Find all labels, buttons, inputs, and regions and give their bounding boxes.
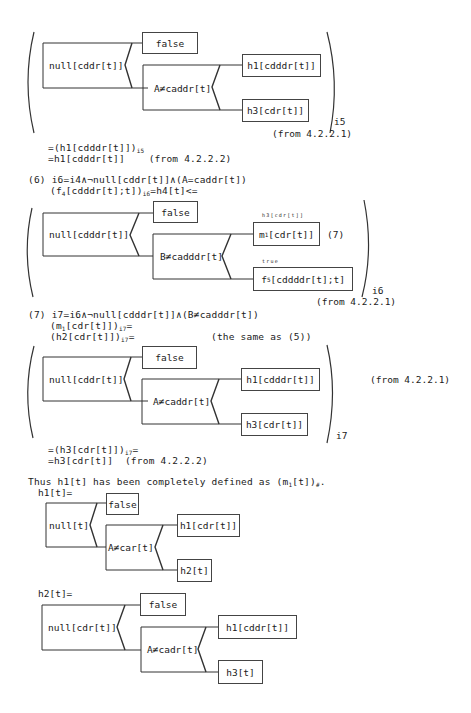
lower-result-box: h3[t] bbox=[218, 660, 263, 684]
conclusion-text: Thus h1[t] has been completely defined a… bbox=[28, 476, 326, 490]
subscript-label: i7 bbox=[336, 430, 347, 441]
subscript-label: i6 bbox=[372, 285, 383, 296]
upper-annotation: h3[cdr[t]] bbox=[262, 212, 304, 218]
step-7-heading: (7) i7=i6∧¬null[cdddr[t]]∧(B≠cadddr[t]) bbox=[28, 309, 259, 320]
inner-condition-label: A≠caddr[t] bbox=[153, 396, 210, 407]
result-line-2: =h1[cdddr[t]] (from 4.2.2.2) bbox=[48, 153, 232, 164]
step-7-note: (the same as (5)) bbox=[211, 331, 312, 342]
step-6-formula: (f4[cdddr[t];t])i6=h4[t]<= bbox=[50, 185, 198, 199]
lower-result-box: h3[cdr[t]] bbox=[242, 99, 309, 122]
inner-condition-label: A≠cadr[t] bbox=[147, 644, 198, 655]
inner-condition-label: A≠caddr[t] bbox=[154, 83, 211, 94]
step-6-heading: (6) i6=i4∧¬null[cddr[t]]∧(A=caddr[t]) bbox=[28, 174, 247, 185]
condition-label: null[cddr[t]] bbox=[49, 374, 123, 385]
subscript-label: i5 bbox=[334, 116, 345, 127]
inner-condition-label: A≠car[t] bbox=[108, 542, 154, 553]
reference-label: (7) bbox=[327, 229, 344, 240]
false-box: false bbox=[140, 593, 186, 616]
upper-result-box: h1[cddr[t]] bbox=[218, 615, 297, 639]
definition-title: h1[t]= bbox=[38, 487, 72, 498]
upper-result-box: h1[cdr[t]] bbox=[177, 514, 240, 537]
upper-result-box: h1[cdddr[t]] bbox=[242, 54, 321, 77]
source-note: (from 4.2.2.1) bbox=[316, 296, 396, 307]
false-box: false bbox=[142, 346, 197, 369]
false-box: false bbox=[153, 201, 198, 223]
definition-title: h2[t]= bbox=[38, 588, 72, 599]
source-note: (from 4.2.2.1) bbox=[272, 128, 352, 139]
diagram-lines bbox=[0, 0, 471, 713]
inner-condition-label: B≠cadddr[t] bbox=[160, 251, 223, 262]
condition-label: null[cdr[t]] bbox=[48, 622, 117, 633]
result-line-2: =h3[cdr[t]] (from 4.2.2.2) bbox=[48, 455, 208, 466]
step-7-formula-2: (h2[cdr[t]])i7= bbox=[50, 331, 135, 345]
false-box: false bbox=[142, 32, 198, 54]
condition-label: null[cdddr[t]] bbox=[49, 229, 129, 240]
false-box: false bbox=[106, 493, 139, 515]
lower-result-box: f5[cddddr[t];t] bbox=[253, 267, 353, 291]
source-note: (from 4.2.2.1) bbox=[370, 374, 450, 385]
lower-result-box: h3[cdr[t]] bbox=[241, 413, 308, 436]
condition-label: null[cddr[t]] bbox=[49, 60, 123, 71]
condition-label: null[t] bbox=[49, 520, 89, 531]
upper-result-box: m1[cdr[t]] bbox=[253, 222, 320, 246]
lower-annotation: true bbox=[262, 258, 279, 264]
upper-result-box: h1[cdddr[t]] bbox=[241, 368, 320, 391]
lower-result-box: h2[t] bbox=[177, 559, 212, 582]
